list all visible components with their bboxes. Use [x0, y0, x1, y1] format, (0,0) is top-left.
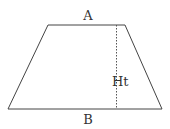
label-bottom-base-b: B: [83, 112, 93, 127]
trapezoid-shape: [8, 25, 162, 109]
label-top-base-a: A: [82, 8, 93, 23]
trapezoid-diagram: A Ht B: [0, 0, 170, 129]
label-height-ht: Ht: [112, 74, 129, 89]
